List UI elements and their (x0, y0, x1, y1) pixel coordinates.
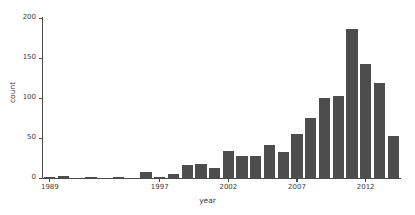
bar (168, 174, 179, 178)
bar (278, 152, 289, 178)
bar (360, 64, 371, 178)
bar (113, 177, 124, 178)
y-tick-label: 50 (27, 133, 36, 141)
x-axis-title: year (0, 196, 415, 205)
bar (209, 168, 220, 178)
x-tick-mark (296, 179, 297, 182)
bar (374, 83, 385, 178)
bar (388, 136, 399, 178)
y-tick-label: 0 (32, 173, 36, 181)
x-tick-label: 2002 (219, 183, 237, 191)
bars-container (43, 18, 400, 178)
x-tick-mark (49, 179, 50, 182)
bar (236, 156, 247, 178)
x-tick-mark (228, 179, 229, 182)
bar (140, 172, 151, 178)
bar (346, 29, 357, 178)
bar (250, 156, 261, 178)
bar (154, 177, 165, 178)
y-axis-title-holder: count (14, 0, 28, 195)
bar (85, 177, 96, 178)
bar (291, 134, 302, 178)
x-tick-label: 2012 (357, 183, 375, 191)
x-tick-label: 1997 (151, 183, 169, 191)
bar (264, 145, 275, 178)
bar (58, 176, 69, 178)
bar (182, 165, 193, 178)
y-tick-mark (39, 58, 42, 59)
y-axis-title: count (8, 82, 17, 103)
x-tick-label: 1989 (41, 183, 59, 191)
bar (319, 98, 330, 178)
y-tick-mark (39, 18, 42, 19)
x-tick-mark (365, 179, 366, 182)
x-tick-mark (159, 179, 160, 182)
bar (44, 177, 55, 178)
y-tick-mark (39, 178, 42, 179)
bar (223, 151, 234, 178)
y-tick-mark (39, 98, 42, 99)
bar (333, 96, 344, 178)
y-tick-mark (39, 138, 42, 139)
x-tick-label: 2007 (288, 183, 306, 191)
bar-chart: 050100150200 19891997200220072012 count … (0, 0, 415, 215)
bar (305, 118, 316, 178)
bar (195, 164, 206, 178)
